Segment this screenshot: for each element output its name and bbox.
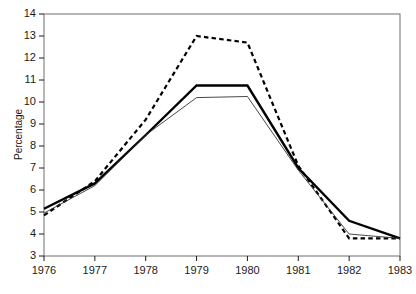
y-tick-label: 12 xyxy=(10,52,36,63)
x-tick-label: 1978 xyxy=(126,265,166,276)
y-tick-label: 3 xyxy=(10,250,36,261)
x-tick-label: 1983 xyxy=(380,265,416,276)
y-tick-label: 13 xyxy=(10,30,36,41)
y-tick-marks xyxy=(39,14,44,256)
x-tick-marks xyxy=(44,256,400,261)
plot-canvas xyxy=(0,0,416,294)
y-tick-label: 14 xyxy=(10,8,36,19)
y-tick-label: 10 xyxy=(10,96,36,107)
x-tick-label: 1976 xyxy=(24,265,64,276)
series-layer xyxy=(44,36,400,238)
y-tick-label: 4 xyxy=(10,228,36,239)
series-line-thick-solid-series xyxy=(44,86,400,239)
y-tick-label: 11 xyxy=(10,74,36,85)
y-tick-label: 7 xyxy=(10,162,36,173)
y-tick-label: 6 xyxy=(10,184,36,195)
x-tick-label: 1980 xyxy=(227,265,267,276)
x-tick-label: 1977 xyxy=(75,265,115,276)
x-tick-label: 1982 xyxy=(329,265,369,276)
x-tick-label: 1981 xyxy=(278,265,318,276)
y-tick-label: 9 xyxy=(10,118,36,129)
line-chart: Percentage 34567891011121314 19761977197… xyxy=(0,0,416,294)
x-tick-label: 1979 xyxy=(177,265,217,276)
y-tick-label: 5 xyxy=(10,206,36,217)
y-tick-label: 8 xyxy=(10,140,36,151)
series-line-dashed-series xyxy=(44,36,400,238)
